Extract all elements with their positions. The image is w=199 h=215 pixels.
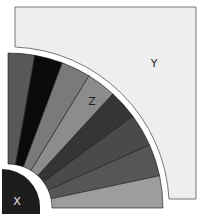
label-y: Y: [150, 57, 158, 70]
label-x: X: [13, 195, 21, 208]
region-x: [2, 169, 40, 214]
label-z: Z: [88, 95, 96, 108]
sector-diagram: Y Z X: [0, 0, 199, 215]
